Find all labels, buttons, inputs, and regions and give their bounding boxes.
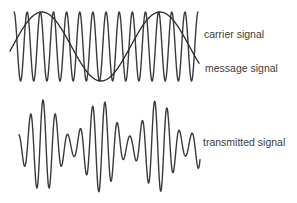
carrier-signal-wave [14,12,198,81]
transmitted-signal-wave [19,100,200,192]
transmitted-signal-label: transmitted signal [203,137,285,148]
carrier-signal-label: carrier signal [204,29,264,40]
message-signal-label: message signal [205,63,278,74]
